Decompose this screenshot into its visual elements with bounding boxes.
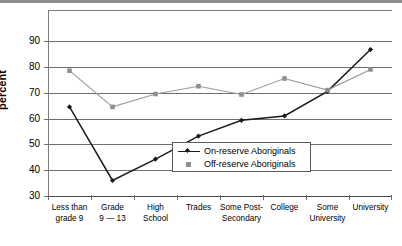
legend-item-off-reserve: Off-reserve Aboriginals [173, 158, 310, 171]
data-point-off-reserve-4 [239, 92, 244, 97]
legend-label-off-reserve: Off-reserve Aboriginals [204, 159, 295, 170]
legend-marker-diamond-icon [178, 146, 200, 157]
y-tick-label-70: 70 [14, 87, 40, 98]
x-axis-category-labels: Less thangrade 9Grade9 — 13HighSchoolTra… [48, 200, 392, 246]
legend-label-on-reserve: On-reserve Aboriginals [204, 146, 296, 157]
data-point-off-reserve-6 [325, 88, 330, 93]
chart-container: percent 30405060708090 Less thangrade 9G… [0, 0, 402, 246]
y-tick-label-80: 80 [14, 61, 40, 72]
header-rule [0, 0, 402, 3]
y-tick-label-30: 30 [14, 190, 40, 201]
data-point-off-reserve-7 [368, 67, 373, 72]
x-label-line: University [300, 213, 356, 224]
data-point-off-reserve-5 [282, 76, 287, 81]
y-tick-label-60: 60 [14, 113, 40, 124]
x-label-line: University [343, 202, 399, 213]
x-label-line: Secondary [214, 213, 270, 224]
data-point-off-reserve-0 [67, 68, 72, 73]
data-point-off-reserve-3 [196, 84, 201, 89]
data-point-off-reserve-2 [153, 92, 158, 97]
x-label-line: School [128, 213, 184, 224]
y-tick-label-50: 50 [14, 138, 40, 149]
x-label-7: University [343, 202, 399, 213]
data-point-on-reserve-4 [239, 118, 244, 123]
legend-marker-square-icon [178, 159, 200, 170]
data-point-off-reserve-1 [110, 105, 115, 110]
y-tick-label-40: 40 [14, 164, 40, 175]
legend-item-on-reserve: On-reserve Aboriginals [173, 145, 310, 158]
y-tick-label-90: 90 [14, 35, 40, 46]
data-point-on-reserve-2 [153, 156, 158, 161]
chart-legend: On-reserve Aboriginals Off-reserve Abori… [172, 142, 311, 172]
